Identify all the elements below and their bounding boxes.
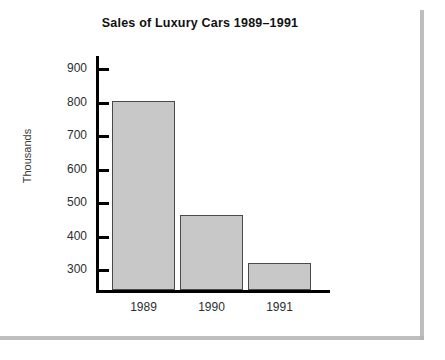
y-tick-mark	[99, 68, 109, 71]
y-tick-label: 700	[67, 128, 87, 142]
y-tick-mark	[99, 102, 109, 105]
chart-title: Sales of Luxury Cars 1989–1991	[0, 16, 400, 30]
bar	[248, 263, 311, 290]
y-tick-label: 800	[67, 95, 87, 109]
x-tick-label: 1989	[112, 300, 175, 314]
y-tick-label: 300	[67, 262, 87, 276]
y-tick-label: 600	[67, 162, 87, 176]
page-sheet: Sales of Luxury Cars 1989–1991 Thousands…	[0, 0, 445, 360]
y-tick-label: 900	[67, 61, 87, 75]
y-tick-mark	[99, 202, 109, 205]
y-axis-line	[96, 56, 99, 293]
page-edge-shadow-bottom	[0, 336, 424, 340]
y-tick-label: 400	[67, 229, 87, 243]
bar	[112, 101, 175, 290]
y-tick-mark	[99, 169, 109, 172]
y-tick-label: 500	[67, 195, 87, 209]
x-axis-line	[96, 290, 330, 293]
bar-chart: Sales of Luxury Cars 1989–1991 Thousands…	[0, 0, 420, 336]
y-axis-title: Thousands	[21, 111, 33, 201]
bar	[180, 215, 243, 290]
page-edge-shadow-right	[420, 10, 424, 340]
y-tick-mark	[99, 236, 109, 239]
x-tick-label: 1990	[180, 300, 243, 314]
y-tick-mark	[99, 135, 109, 138]
x-tick-label: 1991	[248, 300, 311, 314]
y-tick-mark	[99, 269, 109, 272]
plot-area: 300400500600700800900 198919901991	[96, 56, 330, 295]
